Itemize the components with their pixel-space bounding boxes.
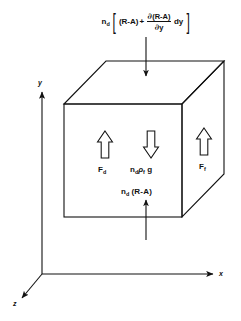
gravity-force-sub: d	[135, 169, 138, 175]
z-axis-label: z	[13, 300, 17, 307]
fraction-numerator-body: (R-A)	[152, 12, 170, 21]
x-axis-label: x	[219, 270, 223, 277]
gravity-force-g: g	[147, 165, 152, 174]
figure-root: nd [ (R-A) + ∂(R-A) ∂y dy ] y x z Fd ndρ…	[0, 0, 241, 321]
gravity-force-arrow	[144, 131, 159, 158]
fluid-force-sub: f	[204, 166, 206, 172]
bottom-flux-sub: d	[126, 191, 130, 197]
top-flux-prefix: nd	[101, 17, 110, 26]
fraction-denominator: ∂y	[154, 22, 165, 31]
bracket-open-icon: [	[113, 15, 116, 29]
drag-force-label: Fd	[98, 166, 106, 174]
bottom-flux-body: (R-A)	[131, 187, 152, 196]
z-axis-line	[22, 274, 42, 298]
drag-force-sub: d	[103, 169, 106, 175]
fluid-force-label: Ff	[199, 163, 206, 171]
drag-force-arrow	[98, 131, 113, 158]
bracket-close-icon: ]	[186, 15, 189, 29]
fraction-denominator-body: y	[159, 23, 163, 32]
coordinate-axes	[22, 92, 213, 298]
top-flux-equation: nd [ (R-A) + ∂(R-A) ∂y dy ]	[101, 12, 192, 31]
bottom-flux-label: nd (R-A)	[121, 188, 152, 196]
top-flux-term1: (R-A)	[118, 17, 139, 26]
top-flux-plus: +	[139, 17, 145, 26]
cube-front-face	[64, 104, 182, 217]
partial-derivative-fraction: ∂(R-A) ∂y	[147, 12, 172, 31]
fraction-numerator: ∂(R-A)	[147, 12, 172, 21]
top-flux-differential: dy	[173, 17, 183, 26]
fluid-force-arrow	[197, 128, 212, 155]
gravity-force-sub2: f	[143, 169, 145, 175]
y-axis-label: y	[38, 79, 42, 86]
figure-canvas	[0, 0, 241, 321]
cube-top-face	[64, 61, 224, 104]
top-flux-prefix-sub: d	[106, 21, 109, 27]
gravity-force-label: ndρf g	[130, 166, 152, 174]
